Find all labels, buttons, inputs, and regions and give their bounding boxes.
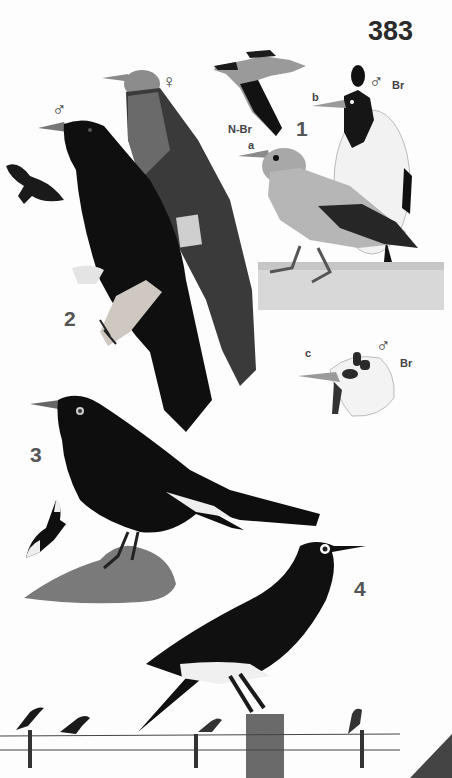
label-br-b: Br [392,80,404,91]
bird-2-flight [6,164,64,204]
species-number-4: 4 [354,578,366,599]
species-number-3: 3 [30,444,42,465]
bird-3-perched [24,396,320,603]
bird-3-flight [26,500,66,558]
species-number-1: 1 [296,118,308,139]
bird-illustrations [0,0,452,778]
label-b: b [312,92,319,103]
label-nonbreeding: N-Br [228,124,252,135]
illustration-plate: 383 1 2 3 4 N-Br a b c ♂ Br ♂ Br ♂ ♀ [0,0,452,778]
page-number: 383 [368,18,413,45]
wires [0,708,400,769]
male-symbol-b: ♂ [369,72,383,91]
male-symbol-c: ♂ [376,336,390,355]
male-symbol-2: ♂ [52,100,66,119]
label-br-c: Br [400,358,412,369]
label-a: a [248,140,254,151]
female-symbol-2: ♀ [162,72,176,91]
corner-tab [410,734,452,778]
species-number-2: 2 [64,308,76,329]
label-c: c [305,348,311,359]
bird-1c-head [298,352,394,416]
